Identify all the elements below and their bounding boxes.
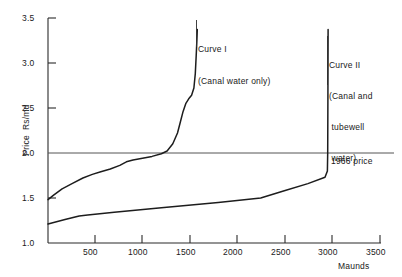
y-tick-label-1.0: 1.0 [22, 238, 34, 248]
curve-1-annotation-subtitle: (Canal water only) [198, 76, 271, 86]
y-tick-label-3.0: 3.0 [22, 58, 34, 68]
x-tick-label-1000: 1000 [128, 247, 148, 257]
y-tick-label-2.0: 2.0 [22, 148, 34, 158]
y-tick-label-3.5: 3.5 [22, 13, 34, 23]
curve-2-annotation: Curve II (Canal and tubewell water) [329, 40, 373, 173]
y-tick-label-1.5: 1.5 [22, 193, 34, 203]
x-tick-label-3000: 3000 [318, 247, 338, 257]
reference-line-label: 1966 price [331, 156, 373, 166]
x-tick-label-1500: 1500 [176, 247, 196, 257]
y-tick-label-2.5: 2.5 [22, 103, 34, 113]
x-axis-title: Maunds [338, 261, 369, 271]
y-axis-title: Price Rs/md [21, 90, 31, 170]
x-tick-label-3500: 3500 [366, 247, 386, 257]
curve-1-canal-water-only [48, 30, 197, 200]
x-tick-marks [95, 235, 380, 243]
x-tick-label-500: 500 [83, 247, 98, 257]
x-tick-label-2500: 2500 [271, 247, 291, 257]
curve-2-annotation-title: Curve II [329, 60, 373, 70]
y-tick-marks [48, 18, 56, 198]
curve-1-annotation: Curve I (Canal water only) [198, 24, 271, 96]
curve-1-annotation-title: Curve I [198, 44, 271, 54]
curve-2-annotation-line-2: tubewell [329, 122, 373, 132]
curve-2-canal-and-tubewell-water [48, 30, 328, 225]
curve-2-annotation-line-1: (Canal and [329, 91, 373, 101]
x-tick-label-2000: 2000 [223, 247, 243, 257]
